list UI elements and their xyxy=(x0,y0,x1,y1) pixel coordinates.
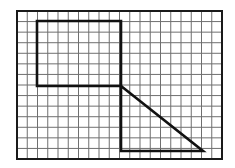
grid-diagram xyxy=(0,0,235,168)
shapes xyxy=(37,21,203,151)
